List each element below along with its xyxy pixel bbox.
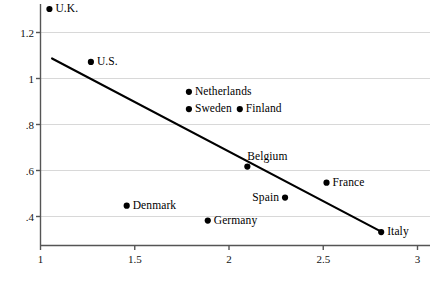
y-axis-tick-label: .8 — [26, 119, 34, 130]
data-point-marker[interactable] — [186, 89, 192, 95]
data-point-label: Netherlands — [195, 86, 252, 98]
x-axis-tick-label: 2.5 — [316, 254, 330, 265]
x-axis-tick-label: 3 — [415, 254, 421, 265]
y-axis-tick-label: 1.2 — [20, 27, 34, 38]
data-point-label: U.S. — [97, 56, 118, 68]
x-axis-tick-label: 2 — [226, 254, 232, 265]
data-point-label: Spain — [252, 192, 279, 204]
y-axis-tick-label: 1 — [29, 73, 35, 84]
scatter-plot-figure: 1.21.8.6.411.522.53U.K.U.S.NetherlandsSw… — [0, 0, 439, 283]
data-point-marker[interactable] — [378, 229, 384, 235]
data-point-label: Belgium — [247, 150, 287, 162]
data-point-marker[interactable] — [282, 195, 288, 201]
data-point-marker[interactable] — [124, 203, 130, 209]
data-point-label: Denmark — [133, 200, 177, 212]
data-point-marker[interactable] — [205, 218, 211, 224]
data-point-marker[interactable] — [46, 6, 52, 12]
data-point-marker[interactable] — [244, 163, 250, 169]
data-point-label: France — [333, 177, 365, 189]
data-point-label: Italy — [387, 226, 409, 238]
y-axis-tick-label: .4 — [26, 211, 34, 222]
data-point-label: U.K. — [55, 3, 78, 15]
y-axis-tick-label: .6 — [26, 165, 34, 176]
data-point-label: Sweden — [195, 103, 232, 115]
x-axis-tick-label: 1.5 — [128, 254, 142, 265]
plot-canvas — [0, 0, 439, 283]
data-point-marker[interactable] — [88, 59, 94, 65]
data-point-marker[interactable] — [323, 180, 329, 186]
data-point-label: Germany — [214, 215, 258, 227]
data-points — [46, 6, 384, 235]
data-point-marker[interactable] — [237, 106, 243, 112]
x-axis-tick-label: 1 — [38, 254, 44, 265]
data-point-label: Finland — [246, 103, 282, 115]
data-point-marker[interactable] — [186, 106, 192, 112]
